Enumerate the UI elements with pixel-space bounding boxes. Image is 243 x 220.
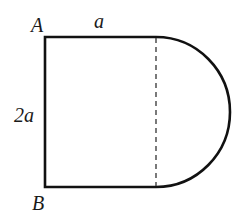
geometry-figure: A a 2a B [0, 0, 243, 220]
label-top-side: a [94, 10, 104, 32]
figure-outline [45, 37, 230, 187]
label-vertex-b: B [32, 192, 44, 214]
label-vertex-a: A [29, 14, 44, 36]
label-left-side: 2a [14, 104, 34, 126]
